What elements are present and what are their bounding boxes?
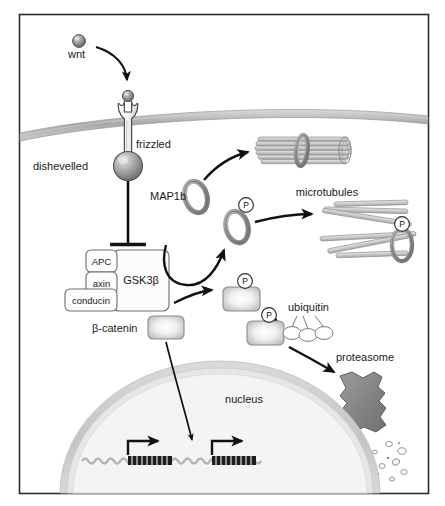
phosphate-badge: P	[239, 198, 254, 213]
dishevelled-label: dishevelled	[33, 160, 88, 172]
gsk3b-label: GSK3β	[123, 274, 159, 286]
phosphate-badge: P	[395, 217, 410, 232]
microtubules-label: microtubules	[296, 186, 359, 198]
frizzled-label: frizzled	[136, 138, 171, 150]
conducin-label: conducin	[72, 295, 110, 306]
axin-label: axin	[93, 278, 110, 289]
map1b-label: MAP1b	[150, 190, 186, 202]
dishevelled-protein	[114, 152, 143, 181]
wnt-ligand	[73, 35, 86, 48]
microtubule-bundle	[255, 134, 351, 166]
phosphate-letter: P	[399, 219, 405, 229]
wnt-bound-ligand	[122, 90, 133, 101]
pathway-diagram-canvas: wnt frizzled dishevelled GSK3β APC axin …	[0, 0, 445, 506]
proteasome-label: proteasome	[336, 351, 394, 363]
phosphate-letter: P	[266, 310, 272, 320]
beta-catenin-free	[148, 316, 184, 339]
phosphate-badge: P	[238, 274, 253, 289]
ubiquitin-label: ubiquitin	[288, 301, 329, 313]
phosphate-letter: P	[243, 200, 249, 210]
beta-catenin-label: β-catenin	[92, 322, 137, 334]
nucleus-label: nucleus	[225, 393, 263, 405]
apc-label: APC	[92, 256, 112, 267]
wnt-label: wnt	[67, 48, 85, 60]
pathway-figure: wnt frizzled dishevelled GSK3β APC axin …	[0, 0, 445, 506]
phosphate-badge: P	[262, 308, 277, 323]
phosphate-letter: P	[242, 276, 248, 286]
